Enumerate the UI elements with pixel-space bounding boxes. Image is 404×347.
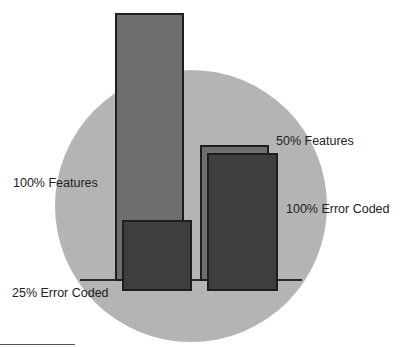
bar-100-error-coded <box>207 153 278 291</box>
label-50-features: 50% Features <box>276 134 354 148</box>
diagram-canvas: 100% Features 25% Error Coded 50% Featur… <box>0 0 404 347</box>
bar-25-error-coded <box>122 220 192 291</box>
label-25-error-coded: 25% Error Coded <box>12 286 109 300</box>
footnote-divider <box>0 344 75 345</box>
label-100-features: 100% Features <box>13 176 98 190</box>
label-100-error-coded: 100% Error Coded <box>286 202 390 216</box>
